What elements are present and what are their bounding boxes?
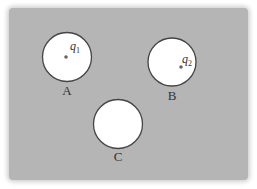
cavity-c — [94, 100, 143, 149]
cavity-label-a: A — [62, 83, 72, 98]
diagram-stage: Aq1Bq2C — [0, 0, 257, 189]
cavity-label-c: C — [114, 149, 123, 164]
cavity-label-b: B — [168, 88, 177, 103]
point-charge-a — [64, 55, 68, 59]
cavities-layer: Aq1Bq2C — [0, 0, 257, 189]
